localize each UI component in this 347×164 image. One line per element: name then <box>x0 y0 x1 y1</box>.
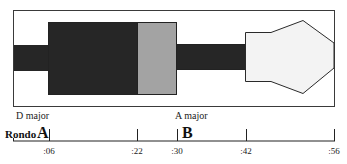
tick-label-56: :56 <box>328 146 340 156</box>
rondo-form-diagram <box>0 0 347 164</box>
rondo-title: Rondo <box>5 128 36 140</box>
tick-label-06: :06 <box>43 146 55 156</box>
transition-gray-block <box>138 23 177 95</box>
tick-label-30: :30 <box>171 146 183 156</box>
key-label-d-major: D major <box>16 110 49 121</box>
connecting-bar <box>177 45 246 70</box>
section-a-block <box>49 23 138 95</box>
section-letter-b: B <box>182 124 193 142</box>
key-label-a-major: A major <box>175 110 208 121</box>
section-letter-a: A <box>37 124 49 142</box>
tick-label-42: :42 <box>240 146 252 156</box>
tick-label-22: :22 <box>131 146 143 156</box>
intro-bar <box>14 45 49 71</box>
